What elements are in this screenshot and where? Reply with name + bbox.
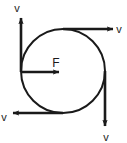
velocity-vector-top-right: v	[63, 23, 122, 35]
free-body-diagram: v v v v F	[0, 0, 127, 143]
velocity-vector-bottom-left: v	[1, 111, 63, 123]
velocity-label-bottom-left: v	[1, 111, 7, 123]
force-vector: F	[21, 56, 60, 72]
velocity-label-bottom-right: v	[103, 131, 109, 143]
velocity-label-top-left: v	[14, 2, 20, 14]
force-label: F	[52, 56, 59, 70]
velocity-vector-bottom-right: v	[103, 71, 109, 143]
velocity-label-top-right: v	[116, 23, 122, 35]
physics-diagram-canvas: v v v v F	[0, 0, 127, 143]
velocity-vector-top-left: v	[14, 2, 21, 72]
